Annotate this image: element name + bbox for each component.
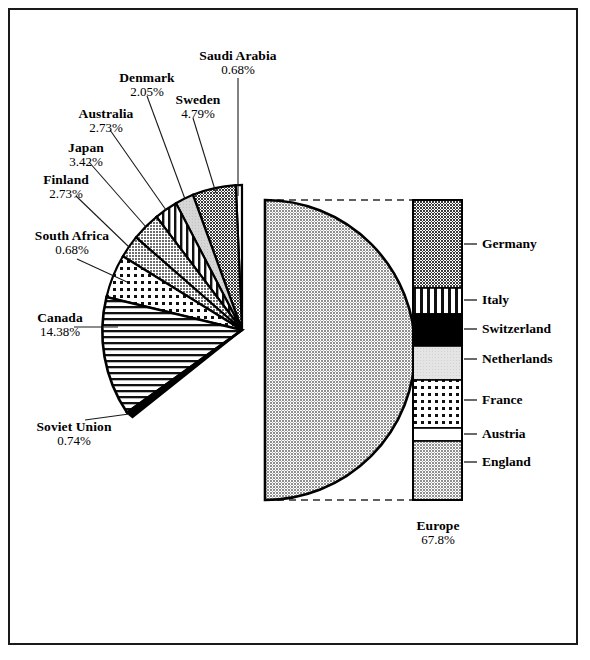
pie-label-soviet-union-percent: 0.74% <box>8 434 140 449</box>
pie-label-south-africa: South Africa 0.68% <box>6 228 138 258</box>
pie-label-finland-name: Finland <box>14 172 118 187</box>
pie-label-south-africa-name: South Africa <box>6 228 138 243</box>
bar-legend-label-austria: Austria <box>482 426 526 442</box>
pie-label-finland-percent: 2.73% <box>14 187 118 202</box>
bar-segment-switzerland <box>413 314 462 346</box>
bar-legend-label-switzerland: Switzerland <box>482 321 551 337</box>
bar-legend-label-germany: Germany <box>482 236 537 252</box>
pie-label-canada-name: Canada <box>8 310 112 325</box>
bar-legend-label-france: France <box>482 392 522 408</box>
pie-label-soviet-union: Soviet Union 0.74% <box>8 419 140 449</box>
bar-segment-germany <box>413 200 462 288</box>
pie-label-europe-name: Europe <box>388 518 488 533</box>
pie-slice-europe[interactable] <box>265 200 415 500</box>
figure-canvas: Saudi Arabia 0.68% Denmark 2.05% Sweden … <box>0 0 590 660</box>
leader-sweden <box>193 118 216 193</box>
pie-label-canada: Canada 14.38% <box>8 310 112 340</box>
bar-legend-label-italy: Italy <box>482 292 509 308</box>
pie-label-australia-name: Australia <box>54 106 158 121</box>
pie-label-europe-percent: 67.8% <box>388 533 488 548</box>
bar-segment-austria <box>413 428 462 441</box>
pie-label-japan-percent: 3.42% <box>38 155 134 170</box>
pie-label-canada-percent: 14.38% <box>8 325 112 340</box>
pie-label-japan: Japan 3.42% <box>38 140 134 170</box>
pie-label-saudi-arabia-name: Saudi Arabia <box>178 48 298 63</box>
bar-segment-italy <box>413 288 462 314</box>
pie-label-sweden-name: Sweden <box>152 92 244 107</box>
pie-label-australia: Australia 2.73% <box>54 106 158 136</box>
pie-label-australia-percent: 2.73% <box>54 121 158 136</box>
pie-label-soviet-union-name: Soviet Union <box>8 419 140 434</box>
bar-segment-netherlands <box>413 346 462 380</box>
bar-legend-label-netherlands: Netherlands <box>482 351 553 367</box>
bar-legend-ticks <box>464 244 477 462</box>
pie-label-europe: Europe 67.8% <box>388 518 488 548</box>
pie-label-japan-name: Japan <box>38 140 134 155</box>
pie-label-south-africa-percent: 0.68% <box>6 243 138 258</box>
bar-legend-label-england: England <box>482 454 531 470</box>
pie-label-sweden-percent: 4.79% <box>152 107 244 122</box>
bar-segment-france <box>413 380 462 428</box>
pie-label-finland: Finland 2.73% <box>14 172 118 202</box>
europe-stacked-bar <box>413 200 462 500</box>
pie-label-sweden: Sweden 4.79% <box>152 92 244 122</box>
pie-label-denmark-name: Denmark <box>95 70 199 85</box>
bar-segment-england <box>413 441 462 500</box>
